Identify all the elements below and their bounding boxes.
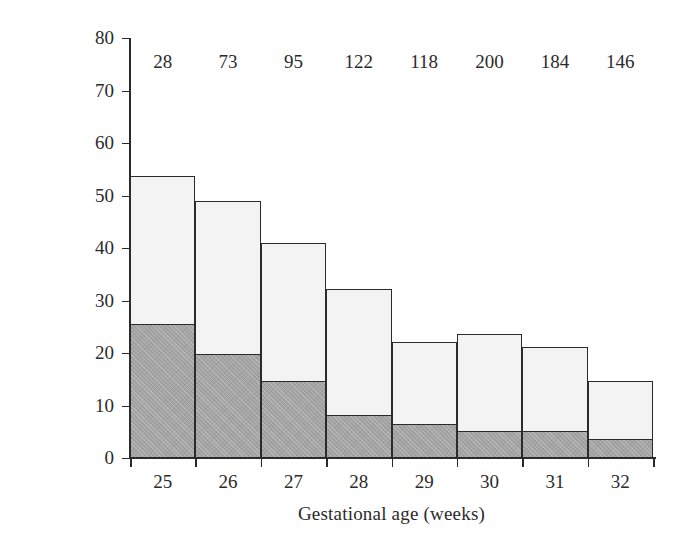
x-tick-label: 31 bbox=[522, 472, 587, 491]
x-tick-mark bbox=[261, 458, 263, 467]
bar-group bbox=[457, 38, 522, 458]
bar-stack bbox=[457, 334, 522, 458]
bar-count-label: 184 bbox=[522, 52, 587, 71]
bar-count-label: 95 bbox=[261, 52, 326, 71]
bar-stack bbox=[392, 342, 457, 458]
bar-segment-lower bbox=[131, 324, 194, 457]
bar-count-label: 122 bbox=[326, 52, 391, 71]
bar-count-label: 118 bbox=[392, 52, 457, 71]
bar-group bbox=[522, 38, 587, 458]
y-tick-mark bbox=[122, 38, 129, 39]
y-tick-mark bbox=[122, 91, 129, 92]
y-tick-mark bbox=[122, 301, 129, 302]
bar-count-label: 200 bbox=[457, 52, 522, 71]
y-tick-label: 80 bbox=[70, 28, 114, 47]
bar-group bbox=[261, 38, 326, 458]
bar-stack bbox=[326, 289, 391, 458]
x-tick-mark bbox=[588, 458, 590, 467]
bar-stack bbox=[588, 381, 653, 458]
bar-segment-lower bbox=[393, 424, 456, 457]
y-tick-mark bbox=[122, 458, 129, 459]
y-tick-mark bbox=[122, 143, 129, 144]
bar-stack bbox=[130, 176, 195, 458]
bar-count-label: 146 bbox=[588, 52, 653, 71]
x-tick-label: 25 bbox=[130, 472, 195, 491]
y-tick-label: 30 bbox=[70, 291, 114, 310]
x-tick-label: 32 bbox=[588, 472, 653, 491]
y-tick-label: 0 bbox=[70, 448, 114, 467]
x-tick-label: 29 bbox=[392, 472, 457, 491]
bar-segment-lower bbox=[262, 381, 325, 457]
bar-group bbox=[326, 38, 391, 458]
x-axis-title: Gestational age (weeks) bbox=[130, 503, 653, 525]
bar-stack bbox=[195, 201, 260, 458]
bar-group bbox=[130, 38, 195, 458]
plot-area bbox=[130, 38, 653, 458]
x-tick-mark bbox=[457, 458, 459, 467]
y-tick-label: 60 bbox=[70, 133, 114, 152]
x-tick-label: 26 bbox=[195, 472, 260, 491]
y-tick-mark bbox=[122, 248, 129, 249]
y-tick-label: 50 bbox=[70, 186, 114, 205]
x-tick-label: 28 bbox=[326, 472, 391, 491]
y-tick-label: 10 bbox=[70, 396, 114, 415]
bar-count-label: 73 bbox=[195, 52, 260, 71]
chart-figure: Percentage (%) 01020304050607080 2873951… bbox=[0, 0, 689, 546]
bar-segment-lower bbox=[196, 354, 259, 457]
y-tick-label: 40 bbox=[70, 238, 114, 257]
bar-stack bbox=[261, 243, 326, 458]
x-tick-mark bbox=[653, 458, 655, 467]
x-tick-mark bbox=[195, 458, 197, 467]
bar-segment-lower bbox=[523, 431, 586, 457]
x-tick-label: 30 bbox=[457, 472, 522, 491]
bar-stack bbox=[522, 347, 587, 458]
x-tick-mark bbox=[130, 458, 132, 467]
bar-group bbox=[392, 38, 457, 458]
bar-group bbox=[195, 38, 260, 458]
x-tick-mark bbox=[522, 458, 524, 467]
bar-group bbox=[588, 38, 653, 458]
y-tick-mark bbox=[122, 353, 129, 354]
bar-count-label: 28 bbox=[130, 52, 195, 71]
bar-segment-lower bbox=[458, 431, 521, 457]
x-tick-mark bbox=[326, 458, 328, 467]
y-tick-label: 20 bbox=[70, 343, 114, 362]
x-tick-label: 27 bbox=[261, 472, 326, 491]
bar-segment-lower bbox=[327, 415, 390, 457]
y-tick-mark bbox=[122, 196, 129, 197]
y-tick-label: 70 bbox=[70, 81, 114, 100]
y-tick-mark bbox=[122, 406, 129, 407]
x-tick-mark bbox=[392, 458, 394, 467]
bar-segment-lower bbox=[589, 439, 652, 457]
